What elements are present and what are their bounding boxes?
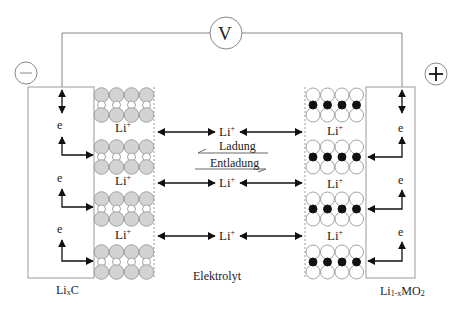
electron-label: e bbox=[398, 174, 403, 186]
voltmeter-label: V bbox=[218, 24, 232, 43]
anode-material-label: LixC bbox=[56, 284, 79, 297]
anode-ion-label: Li+ bbox=[115, 121, 131, 134]
battery-diagram: V Li+ Li+ Li+ Li+ Li+ Li+ Li+ Li+ Li+ e … bbox=[0, 0, 454, 310]
electron-label: e bbox=[57, 223, 62, 235]
cathode-ion-label: Li+ bbox=[327, 124, 343, 137]
cathode-collector bbox=[366, 87, 415, 278]
electrolyte-ion-label: Li+ bbox=[219, 125, 235, 138]
cathode-electron-arrows bbox=[368, 90, 402, 261]
electron-label: e bbox=[57, 172, 62, 184]
electrolyte-ion-label: Li+ bbox=[219, 176, 235, 189]
cathode-material-label: Li1-xMO2 bbox=[380, 285, 425, 298]
anode-ion-label: Li+ bbox=[115, 174, 131, 187]
electrolyte-ion-label: Li+ bbox=[219, 229, 235, 242]
anode-ion-label: Li+ bbox=[115, 228, 131, 241]
electron-label: e bbox=[398, 226, 403, 238]
charge-label: Ladung bbox=[219, 140, 256, 152]
cathode-ion-label: Li+ bbox=[327, 229, 343, 242]
diagram-graphics bbox=[0, 0, 454, 310]
electron-label: e bbox=[398, 122, 403, 134]
discharge-label: Entladung bbox=[210, 157, 259, 169]
negative-terminal-icon bbox=[15, 62, 37, 84]
positive-terminal-icon bbox=[425, 63, 447, 85]
anode-electron-arrows bbox=[62, 90, 93, 261]
electron-label: e bbox=[57, 119, 62, 131]
electrolyte-label: Elektrolyt bbox=[193, 270, 241, 282]
cathode-ion-label: Li+ bbox=[327, 177, 343, 190]
